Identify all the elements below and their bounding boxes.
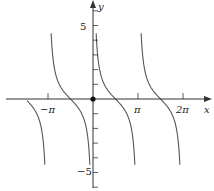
x-axis-arrow-icon <box>204 96 212 102</box>
y-tick-label-neg5: −5 <box>77 166 92 177</box>
y-tick-label-5: 5 <box>80 21 86 32</box>
origin-marker <box>90 96 95 101</box>
x-tick-label-neg-pi: −π <box>40 104 55 115</box>
x-axis-label: x <box>204 104 210 115</box>
x-tick-label-pi: π <box>133 104 141 115</box>
y-axis-label: y <box>97 1 104 12</box>
x-tick-label-2pi: 2π <box>175 104 189 115</box>
chart-canvas: y x 5 −5 −π π 2π <box>0 0 214 191</box>
y-axis-arrow-icon <box>90 0 96 8</box>
